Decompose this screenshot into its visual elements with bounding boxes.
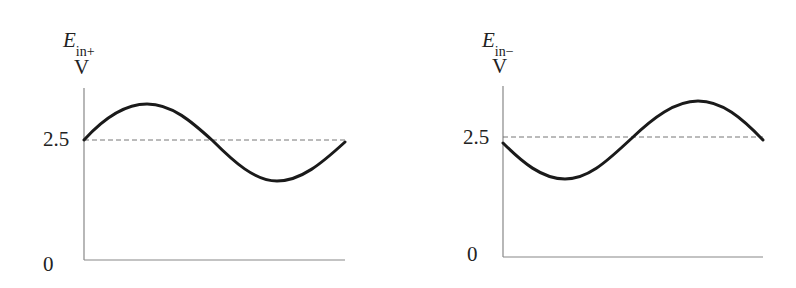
left-signal-curve: [84, 104, 345, 181]
right-tick-2-5: 2.5: [463, 127, 489, 148]
right-y-symbol: E: [482, 28, 495, 52]
right-tick-0: 0: [467, 244, 478, 265]
left-y-unit: V: [74, 57, 89, 78]
left-tick-0: 0: [43, 254, 54, 275]
figure-canvas: [0, 0, 796, 288]
right-y-label: Ein−: [482, 30, 514, 51]
left-chart: [84, 88, 345, 260]
right-signal-curve: [503, 101, 763, 179]
right-y-unit: V: [492, 56, 507, 77]
left-y-label: Ein+: [63, 30, 95, 51]
left-tick-2-5: 2.5: [43, 129, 69, 150]
right-chart: [503, 86, 763, 257]
left-y-symbol: E: [63, 28, 76, 52]
